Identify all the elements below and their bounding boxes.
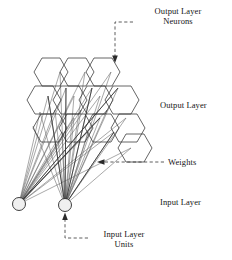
output-neuron-hexagon[interactable] bbox=[118, 134, 152, 162]
input-units-arrowhead bbox=[62, 213, 68, 221]
label-input-layer-units: Input Layer Units bbox=[86, 229, 162, 249]
output-neuron-hexagon[interactable] bbox=[34, 58, 68, 86]
label-output-layer: Output Layer bbox=[160, 100, 232, 110]
label-output-layer-neurons: Output Layer Neurons bbox=[130, 6, 226, 26]
output-neuron-hexagon[interactable] bbox=[60, 58, 94, 86]
label-input-layer: Input Layer bbox=[160, 197, 230, 207]
input-node-1[interactable] bbox=[13, 198, 26, 211]
annotation-output-layer-neurons bbox=[112, 22, 133, 63]
output-neuron-hexagon[interactable] bbox=[111, 114, 145, 142]
output-neuron-hexagon[interactable] bbox=[53, 86, 87, 114]
diagram-canvas bbox=[0, 0, 232, 260]
input-layer-nodes bbox=[13, 198, 72, 212]
output-neuron-hexagon[interactable] bbox=[105, 86, 139, 114]
output-neuron-hexagon[interactable] bbox=[27, 86, 61, 114]
input-node-2[interactable] bbox=[59, 199, 72, 212]
network-diagram-figure: Output Layer Neurons Output Layer Weight… bbox=[0, 0, 232, 260]
weights-arrowhead bbox=[97, 159, 105, 165]
output-neurons-leader-line bbox=[115, 22, 133, 56]
annotation-input-layer-units bbox=[62, 213, 88, 239]
input-units-leader-line bbox=[65, 219, 88, 238]
label-weights: Weights bbox=[168, 157, 230, 167]
